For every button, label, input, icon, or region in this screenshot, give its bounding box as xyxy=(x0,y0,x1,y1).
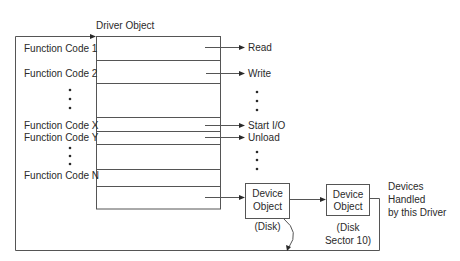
ellipsis-dots-right-2 xyxy=(256,151,259,171)
driver-object-table xyxy=(97,37,221,210)
devices-note-line3: by this Driver xyxy=(388,207,447,218)
device-object-disk: Device Object xyxy=(246,184,290,219)
driver-object-title: Driver Object xyxy=(96,20,155,31)
devices-note-line1: Devices xyxy=(388,181,424,192)
unload-label: Unload xyxy=(248,132,280,143)
device-object-disk-sector-10: Device Object xyxy=(327,185,370,216)
ellipsis-dots-left-1 xyxy=(69,89,72,110)
devices-note-line2: Handled xyxy=(388,194,425,205)
device-object-2-caption-line2: Sector 10) xyxy=(325,235,371,246)
device-object-1-line2: Object xyxy=(253,201,282,212)
function-code-2-label: Function Code 2 xyxy=(24,68,98,79)
ellipsis-dots-left-2 xyxy=(69,147,72,166)
write-label: Write xyxy=(248,68,272,79)
device-object-1-line1: Device xyxy=(252,188,283,199)
driver-object-diagram: Driver Object Function Code 1 Function C… xyxy=(0,0,460,261)
function-code-n-label: Function Code N xyxy=(24,170,99,181)
device-object-2-line2: Object xyxy=(334,201,363,212)
read-label: Read xyxy=(248,42,272,53)
device-object-1-caption: (Disk) xyxy=(254,221,280,232)
function-code-x-label: Function Code X xyxy=(24,120,99,131)
curved-back-pointer-arrow xyxy=(284,219,293,251)
device-object-2-line1: Device xyxy=(333,189,364,200)
function-code-1-label: Function Code 1 xyxy=(24,43,98,54)
arrow-next-device xyxy=(290,197,327,202)
device-object-2-caption-line1: (Disk xyxy=(337,222,361,233)
function-code-y-label: Function Code Y xyxy=(24,132,99,143)
start-io-label: Start I/O xyxy=(248,120,285,131)
ellipsis-dots-right-1 xyxy=(256,91,259,112)
